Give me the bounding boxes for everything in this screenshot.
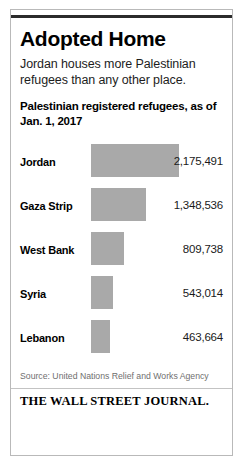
table-row: Jordan 2,175,491 xyxy=(20,142,223,186)
bar-value: 809,738 xyxy=(183,243,223,255)
chart-subhead: Palestinian registered refugees, as of J… xyxy=(20,99,223,129)
infographic-card: Adopted Home Jordan houses more Palestin… xyxy=(0,0,243,465)
bar-west-bank xyxy=(91,232,124,265)
bar-label: Lebanon xyxy=(20,332,64,344)
bar-chart: Jordan 2,175,491 Gaza Strip 1,348,536 We… xyxy=(20,142,223,362)
bar-label: Jordan xyxy=(20,156,55,168)
wsj-logotype: THE WALL STREET JOURNAL. xyxy=(20,394,223,409)
bar-label: Gaza Strip xyxy=(20,200,72,212)
source-note: Source: United Nations Relief and Works … xyxy=(20,371,223,383)
bar-label: West Bank xyxy=(20,244,74,256)
bar-value: 2,175,491 xyxy=(174,155,223,167)
table-row: Syria 543,014 xyxy=(20,274,223,318)
bar-syria xyxy=(91,276,113,309)
bar-lebanon xyxy=(91,320,110,353)
table-row: West Bank 809,738 xyxy=(20,230,223,274)
bar-label: Syria xyxy=(20,288,46,300)
bar-jordan xyxy=(91,144,179,177)
table-row: Gaza Strip 1,348,536 xyxy=(20,186,223,230)
footer-divider xyxy=(11,388,232,389)
bar-gaza-strip xyxy=(91,188,146,221)
page-title: Adopted Home xyxy=(20,27,223,50)
chart-frame: Adopted Home Jordan houses more Palestin… xyxy=(10,9,233,456)
bar-value: 463,664 xyxy=(183,331,223,343)
deck-text: Jordan houses more Palestinian refugees … xyxy=(20,56,223,88)
bar-value: 543,014 xyxy=(183,287,223,299)
top-rule xyxy=(11,15,232,18)
bar-value: 1,348,536 xyxy=(174,199,223,211)
table-row: Lebanon 463,664 xyxy=(20,318,223,362)
